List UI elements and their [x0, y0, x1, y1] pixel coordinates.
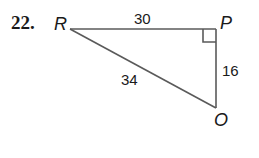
vertex-label-r: R: [54, 14, 67, 35]
vertex-label-o: O: [214, 110, 228, 131]
triangle-edges: [70, 29, 216, 108]
right-angle-marker-icon: [203, 29, 216, 42]
side-label-ro: 34: [121, 71, 138, 88]
side-ro: [70, 29, 216, 108]
side-label-rp: 30: [134, 10, 151, 27]
side-label-po: 16: [222, 62, 239, 79]
vertex-label-p: P: [220, 13, 232, 34]
